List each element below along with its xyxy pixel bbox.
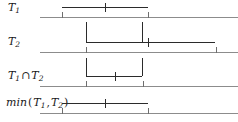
- guide-line-intersection-right: [142, 58, 143, 76]
- row-label-t1: T1: [8, 2, 20, 13]
- interval-point-intersection: [115, 72, 116, 81]
- interval-point-min: [105, 99, 106, 108]
- axis-tick-intersection-end: [143, 81, 144, 87]
- interval-bar-t2: [86, 42, 215, 43]
- row-label-t1-subscript: 1: [15, 6, 20, 15]
- axis-tick-min-start: [62, 108, 63, 114]
- min-function-name: min: [6, 96, 27, 109]
- interval-bar-intersection: [86, 76, 142, 77]
- axis-line-t1: [40, 17, 238, 18]
- axis-line-min: [40, 113, 238, 114]
- axis-tick-t1-end: [148, 12, 149, 18]
- row-label-min-t1-t2: min(T1,T2): [6, 97, 69, 108]
- row-label-t1-cap-t2: T1∩T2: [8, 70, 43, 81]
- intersection-operator: ∩: [20, 69, 31, 82]
- interval-point-t2: [148, 38, 149, 47]
- axis-tick-min-end: [148, 108, 149, 114]
- row-label-min-sub1: 1: [41, 101, 46, 110]
- axis-tick-t2-start: [86, 47, 87, 53]
- axis-tick-intersection-start: [86, 81, 87, 87]
- row-label-t1-cap-t2-sub1: 1: [15, 74, 20, 83]
- row-label-t1-cap-t2-base2: T: [31, 69, 38, 82]
- axis-line-t2: [40, 52, 238, 53]
- guide-line-t2-left: [86, 22, 87, 42]
- axis-line-intersection: [40, 86, 238, 87]
- interval-timeline-figure: T1 T2 T1∩T2 min(T1,T2): [0, 0, 238, 122]
- guide-line-intersection-left: [86, 58, 87, 76]
- interval-point-t1: [105, 3, 106, 12]
- axis-tick-t1-start: [62, 12, 63, 18]
- guide-line-t2-right: [142, 22, 143, 42]
- row-label-t1-cap-t2-sub2: 2: [39, 74, 44, 83]
- row-label-min-base1: T: [33, 96, 40, 109]
- row-label-t2: T2: [8, 36, 20, 47]
- axis-tick-t2-end: [216, 47, 217, 53]
- row-label-t2-subscript: 2: [15, 40, 20, 49]
